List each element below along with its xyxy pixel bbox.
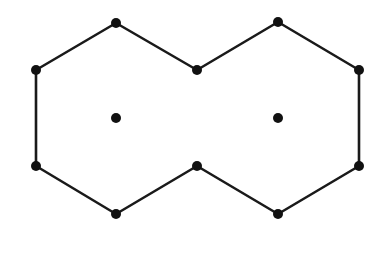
- vertex-dot: [31, 65, 41, 75]
- vertex-dot: [273, 17, 283, 27]
- fused-hexagons-diagram: [0, 0, 385, 256]
- vertex-dot: [111, 209, 121, 219]
- center-dot: [273, 113, 283, 123]
- vertex-dot: [192, 65, 202, 75]
- vertex-dot: [273, 209, 283, 219]
- vertex-dot: [354, 161, 364, 171]
- vertex-dot: [192, 161, 202, 171]
- hexagon-outline: [36, 22, 359, 214]
- vertex-dot: [31, 161, 41, 171]
- center-dot: [111, 113, 121, 123]
- vertex-dot: [111, 18, 121, 28]
- vertex-dot: [354, 65, 364, 75]
- vertex-dots: [31, 17, 364, 219]
- center-dots: [111, 113, 283, 123]
